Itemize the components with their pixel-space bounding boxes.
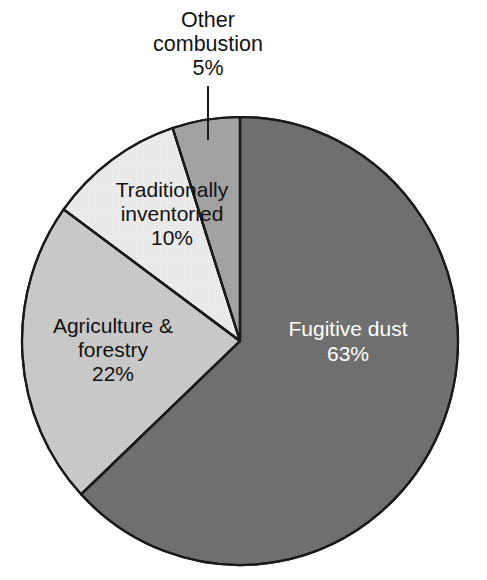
pie-chart-svg: Other combustion 5% Traditionally invent…	[0, 0, 487, 580]
label-traditionally-inventoried-line2: inventoried	[121, 202, 224, 225]
label-other-combustion-line1: Other	[181, 8, 235, 32]
label-agriculture-forestry-value: 22%	[92, 362, 134, 385]
label-agriculture-forestry-line2: forestry	[78, 338, 149, 361]
label-fugitive-dust-line1: Fugitive dust	[288, 317, 407, 340]
label-other-combustion: Other combustion 5%	[153, 8, 263, 80]
label-agriculture-forestry-line1: Agriculture &	[53, 314, 173, 337]
label-traditionally-inventoried-line1: Traditionally	[116, 178, 229, 201]
label-other-combustion-line2: combustion	[153, 32, 263, 56]
label-fugitive-dust-value: 63%	[327, 342, 369, 365]
pie-chart: Other combustion 5% Traditionally invent…	[0, 0, 487, 580]
label-other-combustion-value: 5%	[192, 56, 223, 80]
label-traditionally-inventoried-value: 10%	[151, 226, 193, 249]
